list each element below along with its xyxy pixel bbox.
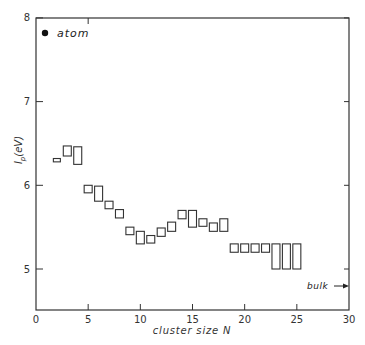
data-box (74, 147, 82, 165)
ionization-potential-chart: 0510152025305678 atom bulk cluster size … (0, 0, 365, 345)
data-box (262, 244, 270, 252)
data-box (282, 244, 290, 269)
bulk-arrow-icon (343, 284, 349, 289)
legend: atom (42, 27, 90, 40)
data-box (178, 210, 186, 218)
x-axis-label: cluster size N (153, 325, 231, 336)
data-box (63, 146, 71, 156)
data-box (209, 223, 217, 231)
data-box (126, 227, 134, 235)
data-box (168, 222, 176, 231)
plot-frame (36, 18, 349, 310)
data-box (189, 210, 197, 227)
data-box (272, 244, 280, 269)
legend-atom-label: atom (57, 27, 90, 40)
y-tick-label: 6 (24, 180, 30, 191)
y-tick-label: 8 (24, 12, 30, 23)
y-axis-label: Ip(eV) (13, 136, 27, 164)
y-tick-label: 7 (24, 96, 30, 107)
data-box (147, 236, 155, 244)
x-tick-label: 10 (134, 314, 147, 325)
data-box (105, 201, 113, 209)
y-tick-label: 5 (24, 264, 30, 275)
data-boxes (53, 146, 300, 269)
data-box (251, 244, 259, 252)
data-box (241, 244, 249, 252)
data-box (136, 231, 144, 244)
atom-marker-icon (42, 30, 48, 36)
data-box (95, 186, 103, 201)
x-tick-label: 20 (238, 314, 251, 325)
x-tick-label: 0 (33, 314, 39, 325)
data-box (230, 244, 238, 252)
data-box (293, 244, 301, 269)
svg-text:Ip(eV): Ip(eV) (13, 136, 27, 164)
axes: 0510152025305678 (24, 12, 356, 325)
data-box (199, 219, 207, 227)
data-box (115, 210, 123, 218)
data-box (84, 185, 92, 193)
y-axis-label-unit: (eV) (13, 136, 24, 157)
data-box (220, 219, 228, 232)
x-tick-label: 25 (290, 314, 303, 325)
x-tick-label: 5 (85, 314, 91, 325)
x-tick-label: 15 (186, 314, 199, 325)
x-tick-label: 30 (343, 314, 356, 325)
bulk-annotation: bulk (307, 281, 349, 291)
data-box (53, 159, 60, 162)
data-box (157, 228, 165, 236)
bulk-label: bulk (307, 281, 328, 291)
